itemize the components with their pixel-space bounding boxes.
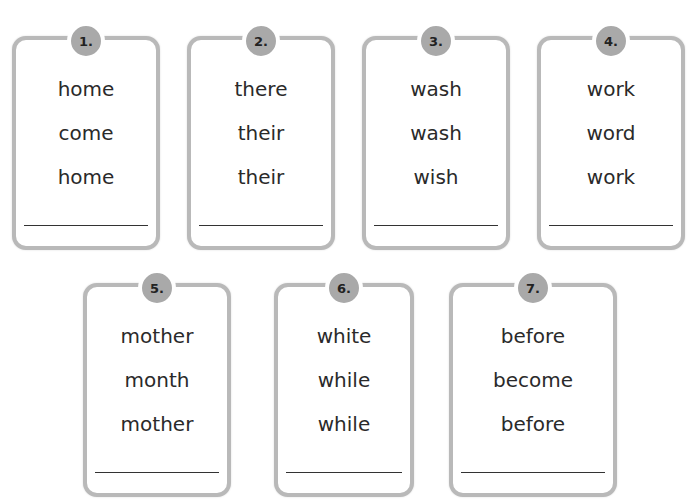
answer-line[interactable]: [374, 225, 498, 226]
number-badge: 1.: [67, 22, 105, 60]
word: mother: [87, 409, 227, 453]
answer-line[interactable]: [286, 472, 402, 473]
card-1: 1. home come home: [12, 36, 160, 250]
word: word: [541, 118, 681, 162]
word: month: [87, 365, 227, 409]
word: their: [191, 162, 331, 206]
card-4: 4. work word work: [537, 36, 685, 250]
number-badge: 7.: [514, 269, 552, 307]
word: work: [541, 74, 681, 118]
card-7: 7. before become before: [449, 283, 617, 497]
card-5: 5. mother month mother: [83, 283, 231, 497]
word: while: [278, 365, 410, 409]
word: work: [541, 162, 681, 206]
word: their: [191, 118, 331, 162]
card-3: 3. wash wash wish: [362, 36, 510, 250]
answer-line[interactable]: [24, 225, 148, 226]
word: wish: [366, 162, 506, 206]
word: wash: [366, 118, 506, 162]
answer-line[interactable]: [199, 225, 323, 226]
number-badge: 4.: [592, 22, 630, 60]
card-6: 6. white while while: [274, 283, 414, 497]
word: while: [278, 409, 410, 453]
number-badge: 6.: [325, 269, 363, 307]
answer-line[interactable]: [95, 472, 219, 473]
word: mother: [87, 321, 227, 365]
word: there: [191, 74, 331, 118]
word: before: [453, 409, 613, 453]
word: before: [453, 321, 613, 365]
answer-line[interactable]: [549, 225, 673, 226]
card-2: 2. there their their: [187, 36, 335, 250]
number-badge: 2.: [242, 22, 280, 60]
word: come: [16, 118, 156, 162]
word: home: [16, 74, 156, 118]
word: become: [453, 365, 613, 409]
word: wash: [366, 74, 506, 118]
word: white: [278, 321, 410, 365]
number-badge: 3.: [417, 22, 455, 60]
answer-line[interactable]: [461, 472, 605, 473]
number-badge: 5.: [138, 269, 176, 307]
word: home: [16, 162, 156, 206]
